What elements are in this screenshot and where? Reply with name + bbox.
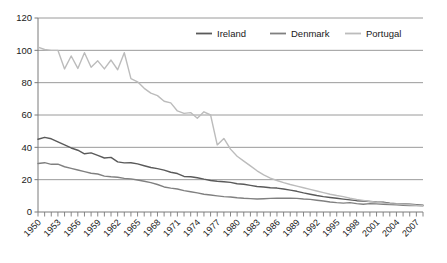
legend-label-portugal: Portugal [366, 28, 401, 39]
y-axis-tick-label: 60 [21, 109, 32, 120]
y-axis-tick-label: 120 [16, 12, 32, 23]
line-chart: 020406080100120 195019531956195919621965… [0, 0, 447, 263]
chart-container: 020406080100120 195019531956195919621965… [0, 0, 447, 263]
chart-legend: IrelandDenmarkPortugal [196, 28, 401, 39]
y-axis-tick-label: 0 [27, 206, 32, 217]
legend-label-denmark: Denmark [291, 28, 330, 39]
legend-label-ireland: Ireland [217, 28, 246, 39]
y-axis-tick-label: 40 [21, 142, 32, 153]
y-axis-tick-label: 20 [21, 174, 32, 185]
y-axis-tick-label: 100 [16, 45, 32, 56]
y-axis-tick-label: 80 [21, 77, 32, 88]
